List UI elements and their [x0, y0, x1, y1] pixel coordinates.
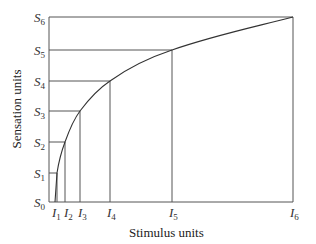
- y-label-s2: S2: [34, 136, 45, 152]
- x-label-i6: I6: [290, 206, 299, 222]
- y-label-s0: S0: [34, 196, 45, 212]
- y-label-s5: S5: [34, 44, 45, 60]
- y-label-s6: S6: [34, 11, 45, 27]
- x-label-i1: I1: [52, 206, 61, 222]
- x-label-i5: I5: [169, 206, 178, 222]
- y-label-s4: S4: [34, 75, 45, 91]
- y-label-s1: S1: [34, 167, 45, 183]
- chart-plot: [0, 0, 316, 244]
- x-label-i4: I4: [107, 206, 116, 222]
- sensation-curve: [55, 17, 293, 202]
- x-label-i3: I3: [78, 206, 87, 222]
- y-axis-title: Sensation units: [9, 64, 25, 154]
- y-label-s3: S3: [34, 105, 45, 121]
- x-axis-title: Stimulus units: [129, 225, 204, 241]
- x-label-i2: I2: [64, 206, 73, 222]
